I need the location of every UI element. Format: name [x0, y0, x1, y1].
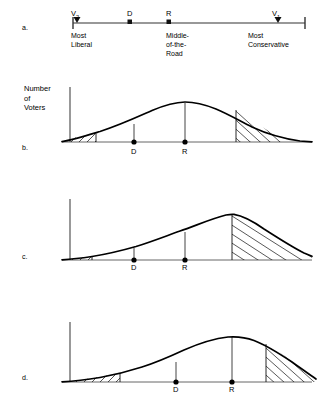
panel-c-d-marker-dot [131, 257, 136, 262]
panel-c-d-label: D [131, 263, 136, 272]
panel-b-r-label: R [182, 147, 187, 156]
panel-b-chart-svg [0, 85, 330, 160]
panel-b-distribution-curve [62, 102, 312, 142]
panel-d-d-marker-dot [173, 379, 178, 384]
scale-label-most-liberal: Most Liberal [71, 31, 92, 49]
panel-b-right-shaded-region [228, 95, 308, 160]
marker-r-square-icon [167, 20, 172, 25]
panel-d-right-shaded-region [258, 332, 330, 390]
figure-container: a. V2 D R V1 Most Liberal Middle- of-the… [0, 0, 330, 400]
panel-d-left-shaded-region [48, 360, 138, 390]
marker-label-v1-subscript: 1 [277, 14, 280, 20]
marker-label-v2-subscript: 2 [76, 14, 79, 20]
marker-d-square-icon [128, 20, 133, 25]
panel-d-d-label: D [173, 385, 178, 394]
panel-d-r-label: R [229, 385, 234, 394]
panel-c-r-label: R [182, 263, 187, 272]
panel-d-r-marker-dot [229, 379, 234, 384]
panel-b-left-shaded-region [50, 119, 126, 155]
panel-c-chart-svg [0, 190, 330, 270]
scale-label-middle-of-the-road: Middle- of-the- Road [166, 31, 189, 58]
scale-label-most-conservative: Most Conservative [248, 31, 289, 49]
panel-d-distribution-curve [62, 337, 316, 382]
panel-d-chart-svg [0, 310, 330, 390]
panel-b-d-label: D [131, 147, 136, 156]
marker-label-r-top: R [166, 9, 171, 18]
panel-c-r-marker-dot [182, 257, 187, 262]
panel-b-r-marker-dot [182, 139, 187, 144]
marker-label-v1: V1 [272, 9, 280, 20]
panel-b-d-marker-dot [131, 139, 136, 144]
marker-label-v2: V2 [71, 9, 79, 20]
marker-label-d-top: D [127, 9, 132, 18]
